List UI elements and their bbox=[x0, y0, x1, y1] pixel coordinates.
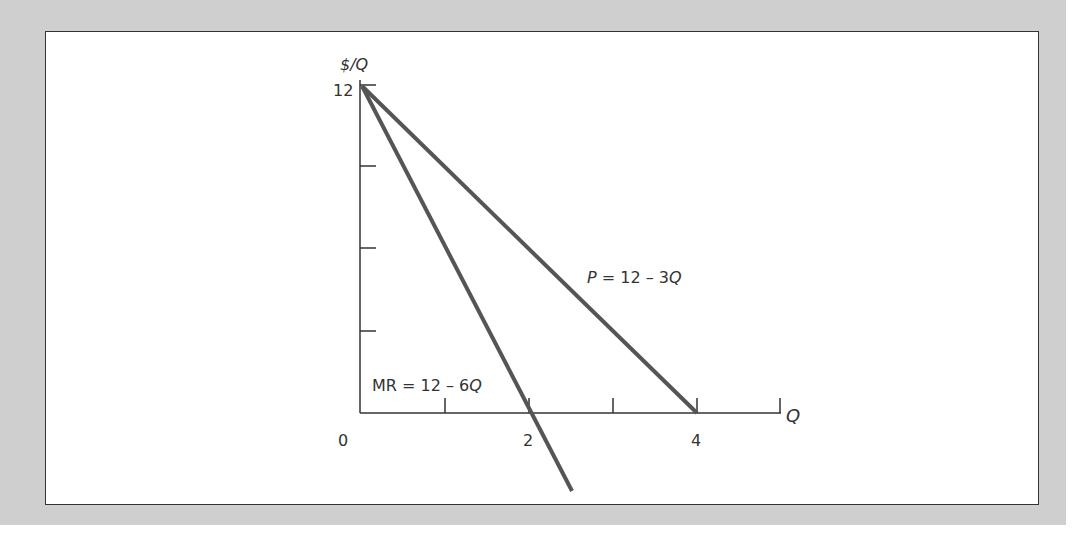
x-tick-label-2: 2 bbox=[523, 431, 533, 450]
y-axis-label: $/Q bbox=[340, 55, 368, 74]
x-tick-label-4: 4 bbox=[691, 431, 701, 450]
chart-svg: $/Q 12 0 2 4 Q P = 12 – 3Q MR = 12 – 6Q bbox=[0, 0, 1089, 536]
marginal-revenue-line bbox=[362, 86, 572, 491]
mr-label: MR = 12 – 6Q bbox=[372, 376, 482, 395]
y-tick-label-12: 12 bbox=[333, 81, 353, 100]
x-ticks bbox=[445, 398, 780, 413]
origin-label: 0 bbox=[338, 431, 348, 450]
x-axis-label: Q bbox=[786, 405, 800, 426]
demand-line bbox=[362, 86, 697, 413]
demand-label: P = 12 – 3Q bbox=[587, 268, 682, 287]
y-ticks bbox=[360, 85, 376, 331]
